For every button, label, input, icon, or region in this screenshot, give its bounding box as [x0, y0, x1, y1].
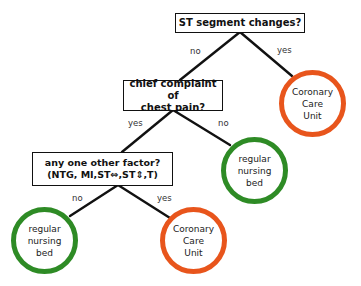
- edge-q2-q3: [122, 110, 173, 152]
- question-st-segment: ST segment changes?: [175, 13, 305, 33]
- question-text-line2: (NTG, MI,ST⇔,ST⇕,T): [47, 169, 158, 181]
- edge-label-q2-yes: yes: [128, 118, 143, 128]
- outcome-text-line2: nursing: [238, 165, 272, 177]
- outcome-regular-nursing-bed-bottom: regular nursing bed: [11, 207, 78, 274]
- edge-q1-q2: [180, 32, 240, 80]
- question-text-line1: chief complaint of: [124, 78, 222, 102]
- outcome-text-line1: Coronary: [173, 223, 214, 235]
- question-other-factor: any one other factor? (NTG, MI,ST⇔,ST⇕,T…: [32, 152, 173, 186]
- outcome-coronary-care-unit-top: Coronary Care Unit: [279, 70, 346, 137]
- outcome-text-line2: nursing: [28, 235, 62, 247]
- outcome-coronary-care-unit-bottom: Coronary Care Unit: [160, 207, 227, 274]
- outcome-text-line3: Unit: [184, 247, 202, 259]
- decision-tree-diagram: ST segment changes? chief complaint of c…: [0, 0, 361, 286]
- edge-label-q2-no: no: [218, 118, 229, 128]
- outcome-text-line1: regular: [238, 153, 270, 165]
- question-text: ST segment changes?: [179, 17, 302, 29]
- edge-label-q1-no: no: [190, 46, 201, 56]
- outcome-text-line1: regular: [28, 223, 60, 235]
- edge-label-q3-yes: yes: [157, 193, 172, 203]
- question-text-line2: chest pain?: [141, 102, 205, 114]
- edge-label-q1-yes: yes: [277, 45, 292, 55]
- outcome-text-line2: Care: [302, 98, 323, 110]
- question-text-line1: any one other factor?: [45, 157, 160, 169]
- outcome-text-line3: bed: [36, 247, 53, 259]
- outcome-text-line3: bed: [246, 177, 263, 189]
- outcome-text-line2: Care: [183, 235, 204, 247]
- outcome-text-line3: Unit: [303, 110, 321, 122]
- edge-label-q3-no: no: [72, 193, 83, 203]
- outcome-text-line1: Coronary: [292, 86, 333, 98]
- question-chest-pain: chief complaint of chest pain?: [123, 80, 223, 111]
- outcome-regular-nursing-bed-middle: regular nursing bed: [221, 137, 288, 204]
